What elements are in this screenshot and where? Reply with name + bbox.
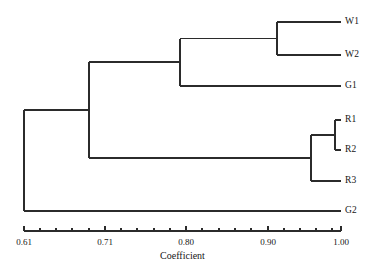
leaf-label-w2: W2 bbox=[345, 50, 359, 60]
leaf-label-w1: W1 bbox=[345, 17, 359, 27]
dendrogram-figure: W1W2G1R1R2R3G2 0.610.710.800.901.00 Coef… bbox=[0, 0, 375, 269]
axis-tick-label-0-8: 0.80 bbox=[178, 238, 194, 247]
axis-tick-label-0-9: 0.90 bbox=[260, 238, 276, 247]
leaf-label-g2: G2 bbox=[345, 206, 357, 216]
axis-tick-label-1: 1.00 bbox=[333, 238, 349, 247]
axis-tick-label-0-61: 0.61 bbox=[16, 238, 32, 247]
leaf-label-r3: R3 bbox=[345, 176, 357, 186]
axis-tick-label-0-71: 0.71 bbox=[97, 238, 113, 247]
leaf-label-r1: R1 bbox=[345, 115, 357, 125]
leaf-label-r2: R2 bbox=[345, 145, 357, 155]
axis-coefficient bbox=[24, 226, 341, 231]
dendrogram-plot bbox=[0, 0, 375, 269]
leaf-label-g1: G1 bbox=[345, 81, 357, 91]
axis-title: Coefficient bbox=[160, 251, 205, 261]
dendrogram-tree bbox=[24, 22, 341, 211]
